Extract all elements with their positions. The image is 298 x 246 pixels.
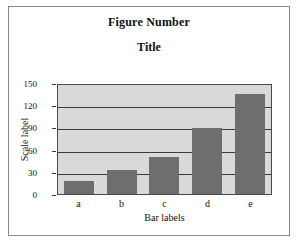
y-tick-mark [52, 106, 56, 107]
figure-frame: Figure Number Title 0306090120150 Scale … [8, 6, 290, 236]
y-tick-mark [52, 173, 56, 174]
bar-series [58, 85, 271, 194]
figure-title-block: Figure Number Title [9, 15, 289, 55]
y-tick-mark [52, 195, 56, 196]
plot-area [57, 84, 272, 195]
x-axis-label: Bar labels [57, 212, 272, 223]
y-axis-label: Scale label [19, 84, 30, 195]
x-tick-label: e [236, 198, 266, 209]
bar-d [192, 128, 222, 194]
x-axis-tick-labels: abcde [57, 198, 272, 209]
bar-e [235, 94, 265, 194]
y-tick-mark [52, 84, 56, 85]
x-tick-label: a [64, 198, 94, 209]
bar-c [149, 157, 179, 194]
chart-title: Title [9, 40, 289, 55]
y-tick-mark [52, 151, 56, 152]
plot-area-wrapper [57, 84, 272, 195]
y-tick-label: 0 [33, 190, 38, 200]
bar-a [64, 181, 94, 194]
y-tick-mark [52, 128, 56, 129]
figure-number-label: Figure Number [9, 15, 289, 30]
x-tick-label: d [193, 198, 223, 209]
x-tick-label: b [107, 198, 137, 209]
x-tick-label: c [150, 198, 180, 209]
bar-b [107, 170, 137, 194]
